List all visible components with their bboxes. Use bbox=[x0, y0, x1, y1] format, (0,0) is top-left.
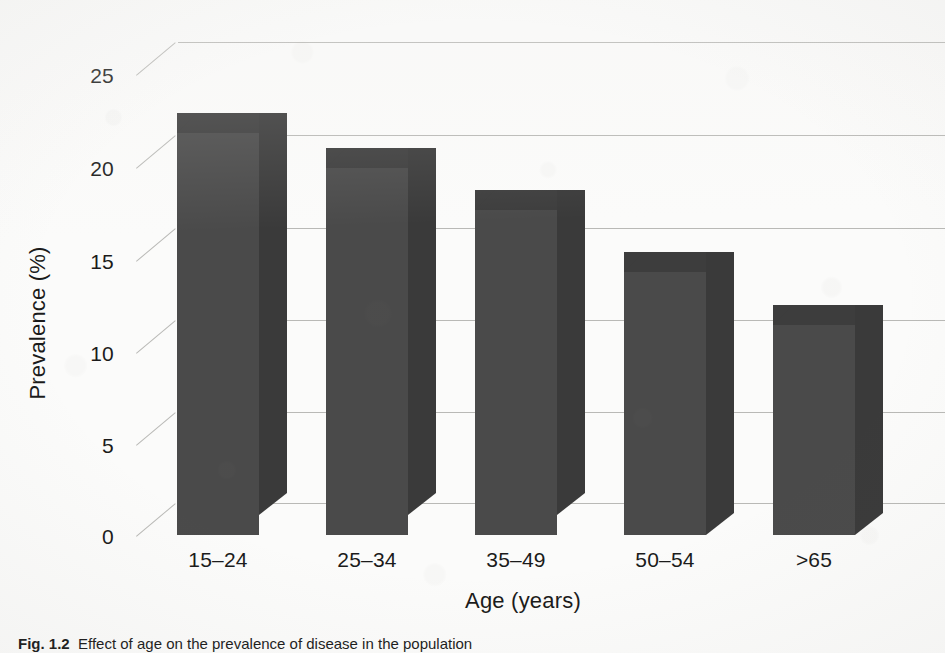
x-tick-label-15-24: 15–24 bbox=[138, 548, 298, 572]
y-tick-label-0: 0 bbox=[60, 525, 114, 549]
gridline-25 bbox=[178, 42, 945, 43]
x-tick-label-25-34: 25–34 bbox=[287, 548, 447, 572]
y-tick-label-20: 20 bbox=[60, 157, 114, 181]
tick-connector-0 bbox=[136, 503, 176, 537]
x-axis-title: Age (years) bbox=[393, 588, 653, 614]
tick-connector-20 bbox=[136, 135, 176, 169]
y-tick-label-25: 25 bbox=[60, 64, 114, 88]
figure-page: 25 20 15 10 5 0 bbox=[0, 0, 945, 653]
y-axis-title: Prevalence (%) bbox=[25, 193, 51, 453]
tick-connector-10 bbox=[136, 320, 176, 354]
bar-side-face-25-34 bbox=[408, 148, 436, 515]
x-tick-label-over-65: >65 bbox=[734, 548, 894, 572]
bar-front-face-50-54 bbox=[624, 272, 706, 535]
tick-connector-15 bbox=[136, 228, 176, 262]
bar-chart-plot-area: 25 20 15 10 5 0 bbox=[0, 0, 945, 653]
bar-front-face-25-34 bbox=[326, 168, 408, 535]
x-tick-label-50-54: 50–54 bbox=[585, 548, 745, 572]
figure-caption-text: Effect of age on the prevalence of disea… bbox=[78, 635, 472, 652]
bar-front-face-over-65 bbox=[773, 325, 855, 535]
tick-connector-5 bbox=[136, 412, 176, 446]
bar-side-face-50-54 bbox=[706, 252, 734, 535]
bar-side-face-over-65 bbox=[855, 305, 883, 535]
y-tick-label-10: 10 bbox=[60, 342, 114, 366]
figure-caption: Fig. 1.2 Effect of age on the prevalence… bbox=[18, 634, 928, 653]
figure-caption-label: Fig. 1.2 bbox=[18, 635, 70, 652]
gridline-20 bbox=[178, 135, 945, 136]
y-tick-label-15: 15 bbox=[60, 250, 114, 274]
bar-side-face-35-49 bbox=[557, 190, 585, 515]
y-tick-label-5: 5 bbox=[60, 434, 114, 458]
x-tick-label-35-49: 35–49 bbox=[436, 548, 596, 572]
bar-side-face-15-24 bbox=[259, 113, 287, 515]
bar-front-face-35-49 bbox=[475, 210, 557, 535]
tick-connector-25 bbox=[136, 42, 176, 76]
bar-front-face-15-24 bbox=[177, 133, 259, 535]
